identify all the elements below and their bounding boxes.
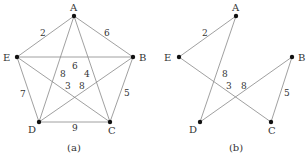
vertex-label-D: D bbox=[28, 124, 36, 135]
vertex-label-C: C bbox=[268, 125, 276, 136]
edge-weight-ED: 7 bbox=[20, 89, 26, 99]
edge-weight-AC: 4 bbox=[84, 69, 90, 79]
vertex-label-E: E bbox=[164, 52, 171, 63]
vertex-label-A: A bbox=[231, 2, 240, 13]
caption: (a) bbox=[67, 142, 81, 153]
edge-weight-BC: 5 bbox=[284, 88, 290, 98]
edge-weight-AD: 8 bbox=[60, 69, 66, 79]
edge-EC bbox=[17, 57, 110, 122]
vertex-D bbox=[37, 120, 41, 124]
vertex-B bbox=[131, 55, 135, 59]
graph-b: 28385ABCDE(b) bbox=[164, 2, 305, 153]
caption: (b) bbox=[229, 142, 243, 153]
vertex-E bbox=[177, 55, 181, 59]
edge-weight-DB: 8 bbox=[79, 81, 85, 91]
vertex-B bbox=[290, 55, 294, 59]
vertex-label-B: B bbox=[139, 52, 146, 63]
edge-weight-AE: 2 bbox=[40, 28, 46, 38]
vertex-A bbox=[234, 14, 238, 18]
edge-weight-AB: 6 bbox=[104, 28, 110, 38]
vertex-label-B: B bbox=[298, 52, 305, 63]
edge-weight-EC: 3 bbox=[65, 81, 71, 91]
vertex-C bbox=[269, 120, 273, 124]
vertex-label-A: A bbox=[69, 2, 78, 13]
edge-weight-DC: 9 bbox=[72, 123, 78, 133]
edge-weight-AD: 8 bbox=[222, 69, 228, 79]
edge-DB bbox=[39, 57, 133, 122]
edge-weight-EC: 3 bbox=[226, 81, 232, 91]
graph-figure: 2667598438ABCDE(a)28385ABCDE(b) bbox=[0, 0, 306, 163]
edge-weight-DB: 8 bbox=[241, 81, 247, 91]
vertex-C bbox=[108, 120, 112, 124]
vertex-label-C: C bbox=[108, 125, 116, 136]
vertex-E bbox=[15, 55, 19, 59]
vertex-D bbox=[198, 120, 202, 124]
vertex-A bbox=[72, 14, 76, 18]
edge-weight-AE: 2 bbox=[202, 28, 208, 38]
vertex-label-D: D bbox=[189, 124, 197, 135]
graph-a: 2667598438ABCDE(a) bbox=[3, 2, 146, 153]
edge-weight-EB: 6 bbox=[72, 61, 78, 71]
edge-weight-BC: 5 bbox=[124, 88, 130, 98]
vertex-label-E: E bbox=[3, 52, 10, 63]
edge-EC bbox=[179, 57, 271, 122]
